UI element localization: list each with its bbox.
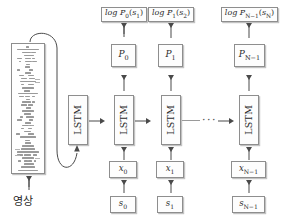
lstm-label: LSTM <box>73 105 83 135</box>
lstm-h-arrow-dots-to-tN <box>218 117 234 124</box>
prob-box-t0: P0 <box>111 44 136 67</box>
prob-box-tN: PN−1 <box>234 44 265 67</box>
lstm-label: LSTM <box>166 105 176 135</box>
word-embedding-box-tN: xN−1 <box>231 161 266 178</box>
lstm-h-line-t1-to-dots <box>182 120 200 121</box>
log-prob-label-t1: log P1(s2) <box>152 9 190 19</box>
s-label-tN: sN−1 <box>239 199 258 210</box>
arrow-p-to-log-tN <box>245 23 252 38</box>
image-input-label: 영상 <box>13 192 33 208</box>
arrow-p-to-log-t1 <box>167 23 174 38</box>
log-prob-label-tN: log PN−1(sN) <box>225 9 274 19</box>
arrow-lstm-to-p-t1 <box>167 75 174 91</box>
word-token-box-tN: sN−1 <box>232 196 265 213</box>
word-embedding-box-t1: x1 <box>156 161 184 178</box>
ellipsis: ··· <box>202 115 217 126</box>
s-label-t1: s1 <box>166 199 174 210</box>
word-token-box-t1: s1 <box>157 196 183 213</box>
arrow-lstm-to-p-t0 <box>120 75 127 91</box>
x-label-t0: x0 <box>119 164 128 175</box>
log-prob-box-t0: log P0(s1) <box>101 7 147 22</box>
cnn-layer-stack <box>12 44 44 173</box>
arrow-x-to-lstm-tN <box>245 147 252 160</box>
prob-label-t0: P0 <box>118 50 128 61</box>
lstm-h-arrow-t0-to-t1 <box>135 117 151 124</box>
log-prob-box-tN: log PN−1(sN) <box>221 7 278 22</box>
lstm-label: LSTM <box>119 105 129 135</box>
x-label-t1: x1 <box>166 164 175 175</box>
lstm-h-arrow-init-to-t0 <box>89 117 105 124</box>
arrow-s-to-x-tN <box>245 180 252 193</box>
diagram-canvas: 영상 LSTM log P0(s1) P0 LSTM <box>0 0 285 224</box>
arrow-s-to-x-t1 <box>167 180 174 193</box>
word-embedding-box-t0: x0 <box>109 161 137 178</box>
lstm-label: LSTM <box>244 105 254 135</box>
arrow-p-to-log-t0-shaft <box>120 23 127 37</box>
word-token-box-t0: s0 <box>110 196 136 213</box>
prob-label-t1: P1 <box>165 50 175 61</box>
log-prob-label-t0: log P0(s1) <box>105 9 143 19</box>
arrow-lstm-to-p-tN <box>245 75 252 91</box>
lstm-cell-t1: LSTM <box>161 95 181 145</box>
image-input-arrow-shaft <box>25 176 32 190</box>
arrow-x-to-lstm-t1 <box>167 147 174 160</box>
arrow-s-to-x-t0 <box>120 180 127 193</box>
prob-label-tN: PN−1 <box>239 50 260 61</box>
lstm-cell-tN: LSTM <box>239 95 259 145</box>
log-prob-box-t1: log P1(s2) <box>148 7 194 22</box>
s-label-t0: s0 <box>119 199 127 210</box>
cnn-encoder-box <box>11 43 45 174</box>
lstm-cell-t0: LSTM <box>114 95 134 145</box>
prob-box-t1: P1 <box>158 44 183 67</box>
x-label-tN: xN−1 <box>239 164 258 175</box>
lstm-cell-init: LSTM <box>68 95 88 145</box>
arrow-x-to-lstm-t0 <box>120 147 127 160</box>
